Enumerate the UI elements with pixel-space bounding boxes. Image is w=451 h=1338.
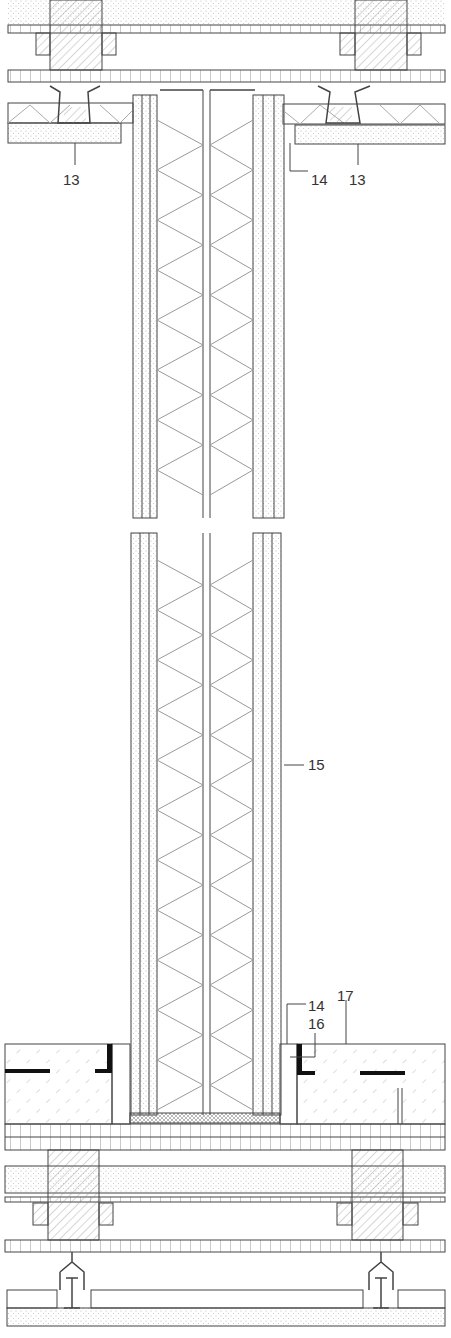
callout-14-bottom: 14 <box>308 998 325 1013</box>
callout-17: 17 <box>337 988 354 1003</box>
callout-15: 15 <box>308 757 325 772</box>
callout-13-left: 13 <box>63 172 80 187</box>
callout-14-top: 14 <box>311 172 328 187</box>
callout-16: 16 <box>308 1016 325 1031</box>
wall-section-drawing <box>0 0 451 1338</box>
callout-13-right: 13 <box>349 172 366 187</box>
